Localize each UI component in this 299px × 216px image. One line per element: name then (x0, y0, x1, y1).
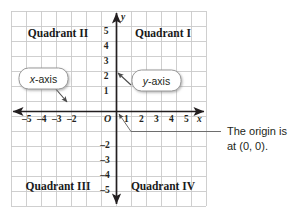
y-axis-callout-rest: -axis (148, 75, 170, 87)
x-tick--2: –2 (66, 114, 77, 124)
y-axis-letter: y (120, 12, 126, 22)
x-axis-callout-rest: -axis (35, 73, 57, 85)
y-tick--3: –3 (99, 155, 110, 165)
origin-note-line1: The origin is (227, 125, 287, 137)
x-axis-callout-text: x-axis (29, 73, 57, 85)
x-tick-4: 4 (169, 114, 174, 124)
y-tick--5: –5 (99, 185, 110, 195)
x-tick--3: –3 (51, 114, 62, 124)
x-tick-2: 2 (139, 114, 144, 124)
y-tick--2: –2 (99, 140, 110, 150)
x-tick-5: 5 (184, 114, 189, 124)
x-tick--4: –4 (36, 114, 47, 124)
y-tick-3: 3 (104, 56, 109, 66)
origin-label: O (104, 113, 111, 124)
quadrant-2-label: Quadrant II (28, 27, 89, 39)
origin-note-line2: at (0, 0). (227, 140, 268, 152)
coordinate-plane-svg: x y O –5 –4 –3 –2 1 2 3 4 5 5 4 3 2 1 –2… (0, 0, 299, 216)
y-tick--4: –4 (99, 170, 110, 180)
x-tick--5: –5 (21, 114, 32, 124)
x-axis-letter: x (196, 114, 202, 124)
y-axis-callout-text: y-axis (142, 75, 170, 87)
quadrant-1-label: Quadrant I (135, 27, 191, 39)
y-tick-5: 5 (104, 26, 109, 36)
y-tick-2: 2 (104, 71, 109, 81)
quadrant-4-label: Quadrant IV (131, 180, 196, 192)
x-tick-3: 3 (154, 114, 159, 124)
y-tick-1: 1 (104, 86, 109, 96)
y-tick-4: 4 (104, 41, 109, 51)
coordinate-plane-figure: x y O –5 –4 –3 –2 1 2 3 4 5 5 4 3 2 1 –2… (0, 0, 299, 216)
quadrant-3-label: Quadrant III (26, 180, 91, 192)
